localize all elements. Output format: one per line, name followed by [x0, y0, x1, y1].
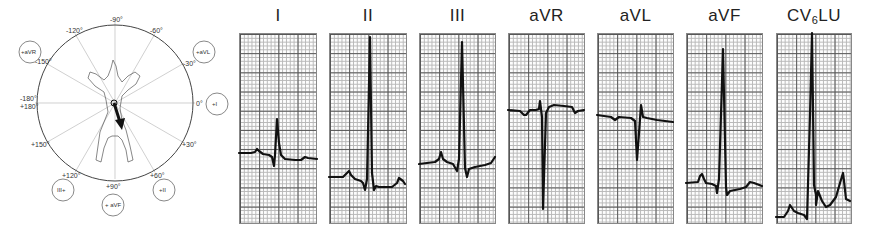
strip-title: aVR — [508, 6, 585, 26]
ecg-trace — [686, 33, 763, 224]
angle-label-plus150: +150° — [31, 141, 50, 148]
ecg-strip-lead-avl: aVL — [597, 33, 674, 224]
svg-text:+II: +II — [159, 187, 166, 193]
strip-title: aVF — [686, 6, 763, 26]
angle-label-minus180: -180° — [20, 95, 37, 102]
ecg-trace — [329, 33, 407, 224]
angle-label-plus30: +30° — [182, 141, 197, 148]
strip-title: I — [239, 6, 317, 26]
strip-title: aVL — [597, 6, 674, 26]
strip-title: II — [329, 6, 407, 26]
ecg-strip-lead-cv6lu: CV6LU — [776, 33, 852, 224]
ecg-strip-lead-avr: aVR — [508, 33, 585, 224]
ecg-strip-lead-avf: aVF — [686, 33, 763, 224]
angle-label-minus90: -90° — [110, 16, 123, 23]
svg-text:+aVL: +aVL — [196, 49, 211, 55]
angle-label-minus60: -60° — [150, 27, 163, 34]
angle-label-0: 0° — [196, 100, 203, 107]
hexaxial-axis-diagram: -90° -120° -60° -150° -30° -180° +180° 0… — [0, 0, 230, 239]
svg-text:+ aVF: + aVF — [105, 202, 122, 208]
lead-circle-ii: +II — [153, 179, 175, 201]
angle-label-minus150: -150° — [35, 58, 52, 65]
svg-text:+I: +I — [212, 101, 218, 107]
lead-circle-iii: III+ — [52, 179, 74, 201]
ecg-trace — [597, 33, 674, 224]
angle-label-minus30: -30° — [183, 60, 196, 67]
strip-title: CV6LU — [776, 6, 852, 26]
ecg-trace — [776, 33, 852, 224]
dog-outline-icon — [88, 60, 140, 162]
ecg-strip-lead-iii: III — [419, 33, 496, 224]
lead-circle-avf: + aVF — [102, 194, 124, 216]
svg-text:III+: III+ — [57, 187, 66, 193]
angle-label-plus60: +60° — [150, 172, 165, 179]
svg-text:+aVR: +aVR — [21, 49, 37, 55]
axis-spokes — [35, 19, 195, 179]
lead-circle-i: +I — [206, 93, 228, 115]
angle-label-minus120: -120° — [66, 27, 83, 34]
strip-title: III — [419, 6, 496, 26]
angle-label-plus90: +90° — [106, 183, 121, 190]
lead-circle-avr: +aVR — [19, 41, 41, 63]
angle-label-plus120: +120° — [62, 172, 81, 179]
ecg-trace — [508, 33, 585, 224]
angle-label-plus180: +180° — [20, 103, 39, 110]
ecg-trace — [239, 33, 317, 224]
ecg-strip-lead-i: I — [239, 33, 317, 224]
ecg-trace — [419, 33, 496, 224]
lead-circle-avl: +aVL — [193, 41, 215, 63]
ecg-strip-lead-ii: II — [329, 33, 407, 224]
